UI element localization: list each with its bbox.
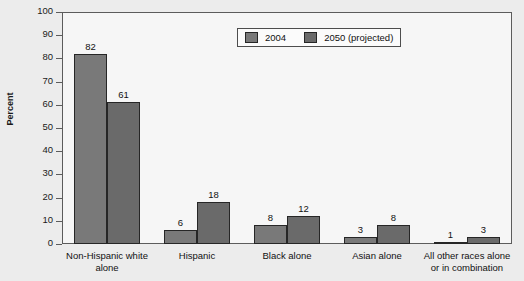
bar-1-series-1: [197, 202, 230, 244]
bar-chart: Percent 0102030405060708090100 826161881…: [0, 0, 524, 281]
bar-3-series-1: [377, 225, 410, 244]
y-axis-tick-label: 80: [42, 51, 53, 62]
legend-label-2050: 2050 (projected): [324, 32, 393, 43]
bar-value-label-3-series-0: 3: [344, 224, 377, 235]
bar-value-label-2-series-1: 12: [287, 203, 320, 214]
x-axis-label-4: All other races alone or in combination: [407, 250, 524, 273]
bar-value-label-0-series-1: 61: [107, 89, 140, 100]
y-axis-tick-label: 50: [42, 121, 53, 132]
legend-entry-2050: 2050 (projected): [304, 32, 393, 43]
y-axis-tick-label: 90: [42, 28, 53, 39]
y-axis-tick-label: 70: [42, 75, 53, 86]
y-axis-tick-label: 0: [48, 237, 53, 248]
bar-value-label-4-series-1: 3: [467, 224, 500, 235]
legend: 2004 2050 (projected): [237, 28, 401, 47]
bar-0-series-0: [74, 54, 107, 244]
bar-4-series-0: [434, 242, 467, 244]
bar-3-series-0: [344, 237, 377, 244]
bar-value-label-0-series-0: 82: [74, 41, 107, 52]
bar-value-label-3-series-1: 8: [377, 212, 410, 223]
legend-swatch-icon-2004: [245, 32, 258, 43]
bar-value-label-4-series-0: 1: [434, 229, 467, 240]
y-axis-tick-label: 40: [42, 144, 53, 155]
y-axis-tick-label: 100: [37, 5, 53, 16]
bar-0-series-1: [107, 102, 140, 244]
bar-value-label-1-series-1: 18: [197, 189, 230, 200]
bar-2-series-0: [254, 225, 287, 244]
bar-value-label-2-series-0: 8: [254, 212, 287, 223]
legend-swatch-icon-2050: [304, 32, 317, 43]
y-axis-tick-label: 60: [42, 98, 53, 109]
bar-4-series-1: [467, 237, 500, 244]
bar-value-label-1-series-0: 6: [164, 217, 197, 228]
y-axis-title: Percent: [5, 81, 15, 137]
y-axis-tick-label: 20: [42, 191, 53, 202]
y-axis-tick-label: 30: [42, 167, 53, 178]
legend-entry-2004: 2004: [245, 32, 286, 43]
y-axis-tick-mark: [56, 244, 62, 245]
y-axis-tick-label: 10: [42, 214, 53, 225]
bar-2-series-1: [287, 216, 320, 244]
legend-label-2004: 2004: [265, 32, 286, 43]
bar-1-series-0: [164, 230, 197, 244]
